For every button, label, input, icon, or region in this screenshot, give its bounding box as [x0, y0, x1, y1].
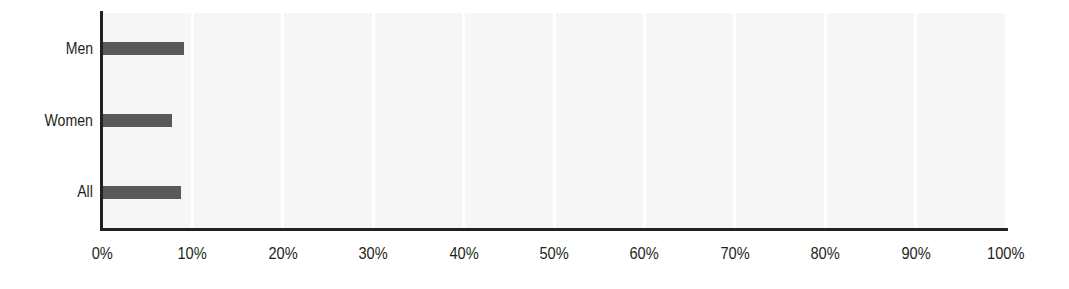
y-axis-label-women: Women — [45, 113, 93, 129]
x-tick-text: 10% — [178, 244, 207, 264]
bar-all — [102, 186, 181, 199]
horizontal-bar-chart: MenWomenAll 0%10%20%30%40%50%60%70%80%90… — [0, 0, 1069, 289]
bar-men — [102, 42, 184, 55]
x-tick-text: 90% — [901, 244, 930, 264]
y-axis-label-all: All — [77, 184, 93, 200]
x-tick-text: 60% — [630, 244, 659, 264]
plot-area — [102, 13, 1006, 228]
x-tick-text: 80% — [811, 244, 840, 264]
x-tick-text: 100% — [987, 244, 1024, 264]
x-tick-text: 30% — [359, 244, 388, 264]
y-axis-label-men: Men — [66, 41, 93, 57]
bars-layer — [102, 13, 1006, 228]
x-tick-text: 40% — [449, 244, 478, 264]
bar-women — [102, 114, 172, 127]
x-tick-text: 0% — [91, 244, 112, 264]
x-tick-text: 50% — [539, 244, 568, 264]
x-tick-text: 20% — [268, 244, 297, 264]
x-tick-100pct: 100% — [946, 244, 1066, 264]
y-axis-line — [100, 11, 103, 230]
x-axis-line — [100, 228, 1008, 231]
x-tick-text: 70% — [720, 244, 749, 264]
